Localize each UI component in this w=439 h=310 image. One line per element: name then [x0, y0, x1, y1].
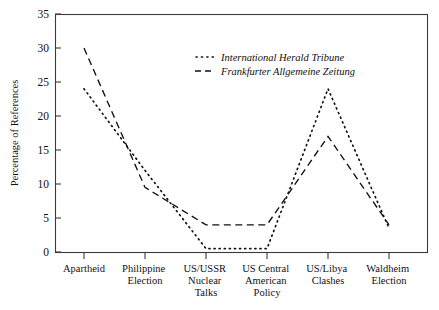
y-tick-group-0: 0	[43, 246, 61, 258]
plot-frame	[56, 15, 428, 253]
x-tick-label-waldheim-election: Waldheim Election	[366, 263, 412, 286]
line-chart-svg: 0 5 10 15 20 25	[0, 0, 439, 310]
y-tick-group-2: 10	[38, 178, 62, 190]
series-layer	[84, 48, 389, 249]
y-tick-label: 30	[38, 42, 50, 54]
y-tick-group-4: 20	[38, 110, 62, 122]
y-tick-label: 0	[43, 246, 49, 258]
x-tick-label-us-ussr-nuclear-talks: US/USSR Nuclear Talks	[183, 263, 228, 298]
y-tick-group-5: 25	[38, 76, 62, 88]
x-tick-label-apartheid: Apartheid	[63, 263, 106, 274]
y-tick-label: 15	[38, 144, 50, 156]
y-tick-label: 5	[43, 212, 49, 224]
chart-figure: 0 5 10 15 20 25	[0, 0, 439, 310]
y-axis: 0 5 10 15 20 25	[38, 8, 62, 258]
x-tick-label-us-central-american-policy: US Central American Policy	[242, 263, 292, 298]
x-tick-labels: Apartheid Philippine Election US/USSR Nu…	[63, 263, 412, 298]
y-axis-title: Percentage of References	[9, 80, 20, 187]
y-tick-label: 20	[38, 110, 50, 122]
y-tick-group-6: 30	[38, 42, 62, 54]
y-tick-label: 35	[38, 8, 50, 20]
y-tick-label: 25	[38, 76, 50, 88]
x-tick-label-us-libya-clashes: US/Libya Clashes	[306, 263, 349, 286]
legend-label-frankfurter-allgemeine-zeitung: Frankfurter Allgemeine Zeitung	[220, 66, 355, 77]
chart-legend: International Herald Tribune Frankfurter…	[195, 52, 355, 77]
y-tick-group-1: 5	[43, 212, 61, 224]
y-tick-group-3: 15	[38, 144, 62, 156]
y-tick-group-7: 35	[38, 8, 62, 20]
x-tick-label-philippine-election: Philippine Election	[122, 263, 168, 286]
legend-label-international-herald-tribune: International Herald Tribune	[220, 52, 344, 63]
y-tick-label: 10	[38, 178, 50, 190]
